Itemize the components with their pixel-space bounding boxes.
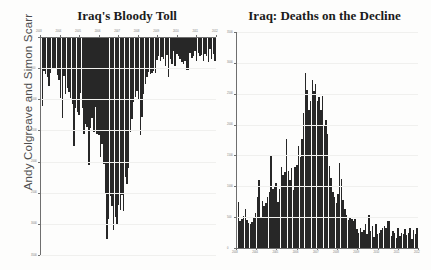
y-tick (234, 186, 236, 187)
x-tick-label: 2007 (114, 30, 120, 33)
y-tick-label: 3000 (227, 61, 233, 64)
bar-series-left (40, 37, 216, 255)
x-tick-label: 2010 (374, 251, 380, 254)
y-tick-label: 1000 (31, 98, 37, 101)
gridline (40, 193, 216, 194)
y-tick (38, 68, 40, 69)
x-tick (236, 248, 237, 250)
y-tick-label: 2000 (227, 123, 233, 126)
y-tick (234, 125, 236, 126)
y-tick (234, 94, 236, 95)
bar-series-right (236, 32, 418, 248)
x-tick (297, 248, 298, 250)
x-tick-label: 2006 (293, 251, 299, 254)
x-tick-label: 2004 (252, 251, 258, 254)
bar (214, 37, 215, 61)
x-axis-line (40, 37, 216, 38)
chart-panel-right: Iraq: Deaths on the Decline 200320042005… (222, 8, 427, 260)
y-tick (234, 248, 236, 249)
gridline (236, 186, 418, 187)
x-tick-label: 2008 (333, 251, 339, 254)
y-tick-label: 1000 (227, 185, 233, 188)
y-tick (38, 130, 40, 131)
gridline (40, 68, 216, 69)
y-tick (234, 32, 236, 33)
y-tick (234, 155, 236, 156)
y-tick-label: 3500 (227, 31, 233, 34)
plot-area-right: 2003200420052006200720082009201020112012… (236, 32, 418, 248)
x-tick (337, 248, 338, 250)
gridline (40, 255, 216, 256)
gridline (40, 162, 216, 163)
x-tick-label: 2012 (414, 251, 420, 254)
x-tick (357, 248, 358, 250)
y-tick (38, 224, 40, 225)
bar (416, 228, 417, 248)
x-tick (177, 35, 178, 37)
gridline (236, 32, 418, 33)
y-tick-label: 500 (31, 67, 35, 70)
y-tick (38, 193, 40, 194)
x-tick (256, 248, 257, 250)
x-tick (138, 35, 139, 37)
x-tick (118, 35, 119, 37)
figure-canvas: Andy Colgreave and Simon Scarr Iraq's Bl… (0, 0, 431, 270)
x-tick (317, 248, 318, 250)
gridline (236, 155, 418, 156)
y-tick-label: 0 (31, 36, 32, 39)
x-axis-line (236, 248, 418, 249)
x-tick-label: 2011 (192, 30, 198, 33)
gridline (236, 94, 418, 95)
x-tick-label: 2005 (75, 30, 81, 33)
x-tick (276, 248, 277, 250)
y-tick-label: 1500 (227, 154, 233, 157)
x-tick (60, 35, 61, 37)
x-tick-label: 2005 (272, 251, 278, 254)
y-tick-label: 2000 (31, 160, 37, 163)
y-tick (38, 255, 40, 256)
y-tick-label: 2500 (227, 92, 233, 95)
y-tick (38, 162, 40, 163)
x-tick-label: 2009 (353, 251, 359, 254)
y-tick (38, 99, 40, 100)
y-tick-label: 1500 (31, 129, 37, 132)
gridline (40, 99, 216, 100)
y-tick (234, 63, 236, 64)
x-tick-label: 2007 (313, 251, 319, 254)
y-tick (38, 37, 40, 38)
gridline (236, 125, 418, 126)
x-tick-label: 2008 (134, 30, 140, 33)
chart-title-right: Iraq: Deaths on the Decline (222, 8, 427, 24)
plot-area-left: 2003200420052006200720082009201020112012… (40, 37, 216, 255)
gridline (40, 130, 216, 131)
x-tick (40, 35, 41, 37)
x-tick-label: 2012 (212, 30, 218, 33)
y-axis-line (40, 37, 41, 255)
gridline (236, 63, 418, 64)
x-tick (216, 35, 217, 37)
y-tick-label: 2500 (31, 191, 37, 194)
x-tick (398, 248, 399, 250)
y-tick (234, 217, 236, 218)
x-tick-label: 2003 (232, 251, 238, 254)
chart-title-left: Iraq's Bloody Toll (36, 8, 218, 24)
x-tick-label: 2004 (56, 30, 62, 33)
x-tick-label: 2009 (153, 30, 159, 33)
x-tick-label: 2010 (173, 30, 179, 33)
y-tick-label: 500 (227, 216, 231, 219)
x-tick-label: 2003 (36, 30, 42, 33)
x-tick (99, 35, 100, 37)
y-axis-line (236, 32, 237, 248)
x-tick (378, 248, 379, 250)
chart-panel-left: Iraq's Bloody Toll 200320042005200620072… (30, 8, 218, 260)
y-tick-label: 3500 (31, 254, 37, 257)
x-tick (418, 248, 419, 250)
y-tick-label: 3000 (31, 222, 37, 225)
x-tick-label: 2006 (95, 30, 101, 33)
x-tick (196, 35, 197, 37)
x-tick-label: 2011 (394, 251, 400, 254)
y-tick-label: 0 (227, 247, 228, 250)
gridline (40, 224, 216, 225)
x-tick (79, 35, 80, 37)
x-tick (157, 35, 158, 37)
